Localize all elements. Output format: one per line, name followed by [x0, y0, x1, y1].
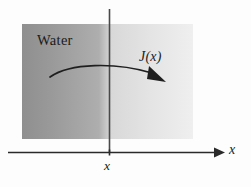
x-tick-label: x [104, 159, 110, 173]
water-region-label: Water [37, 33, 73, 48]
figure-canvas: Water J(x) x x [0, 0, 251, 187]
x-axis-arrowhead-icon [214, 148, 225, 158]
x-axis-label: x [229, 143, 235, 157]
flux-arrow-label: J(x) [139, 50, 162, 64]
diagram-svg [0, 0, 251, 187]
